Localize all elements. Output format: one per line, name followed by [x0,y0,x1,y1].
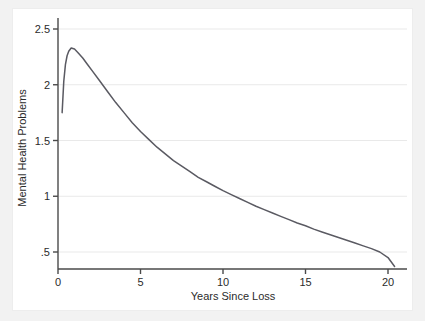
y-tick-label: 1 [44,190,50,202]
x-tick-label: 15 [299,276,311,288]
line-chart: .511.522.505101520 Years Since Loss Ment… [0,0,425,321]
y-tick-label: 2.5 [35,23,50,35]
chart-figure: .511.522.505101520 Years Since Loss Ment… [0,0,425,321]
x-tick-label: 20 [382,276,394,288]
y-tick-label: 2 [44,79,50,91]
y-tick-label: 1.5 [35,135,50,147]
tick-labels-group: .511.522.505101520 [35,23,394,288]
y-axis-title: Mental Health Problems [16,89,28,207]
gridlines-group [59,29,407,252]
x-tick-label: 0 [55,276,61,288]
y-tick-label: .5 [41,246,50,258]
x-tick-label: 5 [137,276,143,288]
axis-titles-group: Years Since Loss Mental Health Problems [16,89,276,302]
series-line [62,48,394,267]
data-series-group [62,48,394,267]
x-axis-title: Years Since Loss [191,290,276,302]
x-tick-label: 10 [217,276,229,288]
axes-group [58,18,407,269]
